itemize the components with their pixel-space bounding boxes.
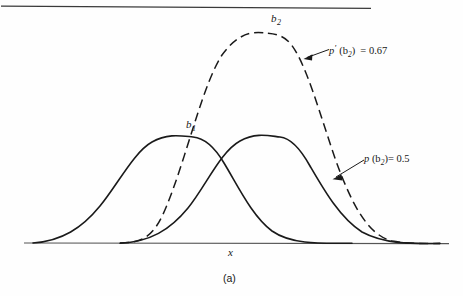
figure-caption: (a) bbox=[223, 273, 236, 284]
annotation-prior-revised: p′ (b2)= 0.67 bbox=[329, 44, 387, 59]
curve-label-b1: b1 bbox=[186, 119, 196, 133]
x-axis-label: x bbox=[228, 247, 233, 258]
annotation-top-arg-close: ) bbox=[352, 45, 356, 56]
curve-b1-solid bbox=[33, 136, 352, 244]
curve-label-b1-subscript: 1 bbox=[192, 124, 197, 133]
curve-label-b2-subscript: 2 bbox=[277, 18, 282, 27]
annotation-top-equals: = 0.67 bbox=[360, 45, 387, 56]
top-rule bbox=[1, 6, 371, 8]
annotation-prior-original: p (b2)= 0.5 bbox=[364, 154, 410, 167]
leader-line-bottom bbox=[336, 160, 364, 177]
curve-b2-dashed bbox=[120, 32, 440, 243]
arrowhead-top bbox=[304, 54, 313, 60]
curve-b2-solid bbox=[120, 135, 440, 243]
annotation-top-arg-open: (b bbox=[337, 45, 348, 56]
arrowhead-bottom bbox=[333, 174, 343, 180]
annotation-bottom-equals: = 0.5 bbox=[388, 153, 410, 164]
x-axis-baseline bbox=[24, 243, 449, 244]
curve-label-b2-text: b bbox=[271, 12, 277, 24]
figure-container: b1 b2 p′ (b2)= 0.67 p (b2)= 0.5 x (a) bbox=[0, 0, 463, 296]
curve-label-b1-text: b bbox=[186, 118, 192, 130]
curve-label-b2: b2 bbox=[271, 13, 281, 27]
annotation-bottom-arg-open: (b bbox=[369, 153, 380, 164]
